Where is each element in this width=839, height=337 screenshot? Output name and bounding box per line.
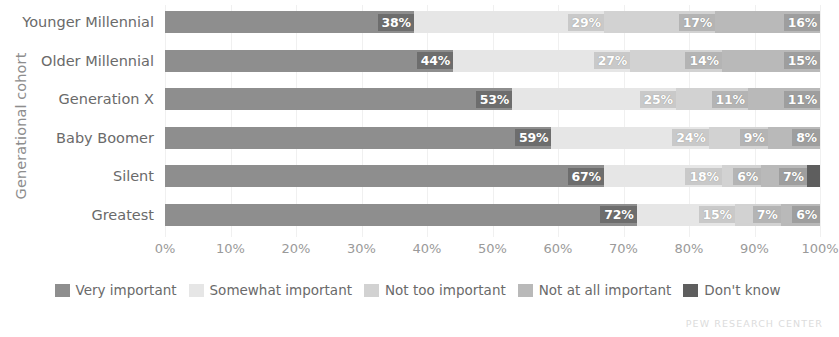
bar-segment: 18% <box>604 165 722 187</box>
segment-value-label: 6% <box>792 206 820 223</box>
legend-item[interactable]: Somewhat important <box>189 282 352 298</box>
legend-swatch-icon <box>55 284 70 297</box>
stacked-bar: 72%15%7%6% <box>165 204 820 226</box>
x-axis-tick-label: 10% <box>216 241 245 256</box>
segment-value-label: 15% <box>784 52 820 69</box>
segment-value-label: 11% <box>712 91 748 108</box>
category-label: Baby Boomer <box>4 127 154 149</box>
legend-swatch-icon <box>364 284 379 297</box>
x-axis-tick-label: 30% <box>347 241 376 256</box>
bar-segment: 9% <box>709 127 768 149</box>
x-axis-tick-label: 50% <box>478 241 507 256</box>
legend-swatch-icon <box>518 284 533 297</box>
x-axis-tick-label: 80% <box>675 241 704 256</box>
bar-segment: 15% <box>637 204 735 226</box>
x-axis-tick-label: 70% <box>609 241 638 256</box>
legend: Very importantSomewhat importantNot too … <box>0 282 835 298</box>
bar-segment: 8% <box>768 127 820 149</box>
x-axis-tick-label: 40% <box>413 241 442 256</box>
bar-segment: 24% <box>551 127 708 149</box>
segment-value-label: 15% <box>699 206 735 223</box>
segment-value-label: 44% <box>417 52 453 69</box>
bar-segment: 7% <box>735 204 781 226</box>
segment-value-label: 7% <box>753 206 781 223</box>
category-label: Greatest <box>4 204 154 226</box>
segment-value-label: 11% <box>784 91 820 108</box>
bar-row: Older Millennial44%27%14%15% <box>165 50 820 72</box>
bar-segment: 15% <box>722 50 820 72</box>
segment-value-label: 72% <box>600 206 636 223</box>
gridline <box>820 5 821 237</box>
segment-value-label: 29% <box>568 14 604 31</box>
plot-area: Younger Millennial38%29%17%16%Older Mill… <box>165 5 820 237</box>
bar-segment: 7% <box>761 165 807 187</box>
bar-segment: 38% <box>165 11 414 33</box>
segment-value-label: 14% <box>685 52 721 69</box>
category-label: Older Millennial <box>4 50 154 72</box>
legend-swatch-icon <box>683 284 698 297</box>
category-label: Generation X <box>4 88 154 110</box>
legend-label: Not too important <box>385 282 506 298</box>
segment-value-label: 27% <box>594 52 630 69</box>
stacked-bar: 44%27%14%15% <box>165 50 820 72</box>
legend-label: Not at all important <box>539 282 672 298</box>
stacked-bar: 38%29%17%16% <box>165 11 820 33</box>
segment-value-label: 18% <box>685 168 721 185</box>
segment-value-label: 6% <box>733 168 761 185</box>
source-credit: PEW RESEARCH CENTER <box>686 318 823 329</box>
bar-segment: 59% <box>165 127 551 149</box>
bar-segment: 6% <box>722 165 761 187</box>
bar-rows: Younger Millennial38%29%17%16%Older Mill… <box>165 5 820 237</box>
bar-row: Baby Boomer59%24%9%8% <box>165 127 820 149</box>
bar-segment: 17% <box>604 11 715 33</box>
bar-row: Generation X53%25%11%11% <box>165 88 820 110</box>
segment-value-label: 9% <box>740 129 768 146</box>
x-axis-tick-label: 100% <box>801 241 838 256</box>
bar-segment: 25% <box>512 88 676 110</box>
segment-value-label: 67% <box>568 168 604 185</box>
segment-value-label: 8% <box>792 129 820 146</box>
x-axis-tick-label: 0% <box>155 241 176 256</box>
bar-row: Silent67%18%6%7% <box>165 165 820 187</box>
bar-segment: 44% <box>165 50 453 72</box>
bar-segment: 67% <box>165 165 604 187</box>
segment-value-label: 25% <box>640 91 676 108</box>
bar-segment: 16% <box>715 11 820 33</box>
legend-item[interactable]: Not too important <box>364 282 506 298</box>
bar-segment: 6% <box>781 204 820 226</box>
segment-value-label: 38% <box>378 14 414 31</box>
legend-item[interactable]: Very important <box>55 282 177 298</box>
bar-segment: 14% <box>630 50 722 72</box>
bar-segment: 11% <box>748 88 820 110</box>
category-label: Silent <box>4 165 154 187</box>
bar-segment: 27% <box>453 50 630 72</box>
legend-label: Somewhat important <box>210 282 352 298</box>
x-axis-tick-label: 90% <box>740 241 769 256</box>
segment-value-label: 53% <box>476 91 512 108</box>
bar-row: Younger Millennial38%29%17%16% <box>165 11 820 33</box>
x-axis-tick-label: 60% <box>544 241 573 256</box>
bar-segment <box>807 165 820 187</box>
stacked-bar: 67%18%6%7% <box>165 165 820 187</box>
category-label: Younger Millennial <box>4 11 154 33</box>
segment-value-label: 24% <box>672 129 708 146</box>
legend-label: Don't know <box>704 282 780 298</box>
segment-value-label: 17% <box>679 14 715 31</box>
legend-label: Very important <box>76 282 177 298</box>
legend-item[interactable]: Not at all important <box>518 282 672 298</box>
segment-value-label: 7% <box>779 168 807 185</box>
bar-segment: 11% <box>676 88 748 110</box>
x-axis: 0%10%20%30%40%50%60%70%80%90%100% <box>165 241 820 261</box>
segment-value-label: 16% <box>784 14 820 31</box>
stacked-bar: 59%24%9%8% <box>165 127 820 149</box>
bar-segment: 72% <box>165 204 637 226</box>
legend-swatch-icon <box>189 284 204 297</box>
bar-segment: 29% <box>414 11 604 33</box>
x-axis-tick-label: 20% <box>282 241 311 256</box>
bar-row: Greatest72%15%7%6% <box>165 204 820 226</box>
bar-segment: 53% <box>165 88 512 110</box>
segment-value-label: 59% <box>515 129 551 146</box>
stacked-bar: 53%25%11%11% <box>165 88 820 110</box>
legend-item[interactable]: Don't know <box>683 282 780 298</box>
